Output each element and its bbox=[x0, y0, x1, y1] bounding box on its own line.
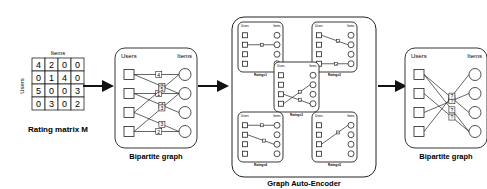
item-node bbox=[348, 132, 354, 138]
item-node bbox=[348, 42, 354, 48]
items-label: Items bbox=[177, 53, 192, 59]
user-node bbox=[124, 108, 134, 118]
user-node bbox=[243, 151, 248, 156]
matrix-caption: Rating matrix M bbox=[28, 125, 88, 134]
user-node bbox=[243, 52, 248, 57]
subgraph-caption: Rating=5 bbox=[328, 163, 341, 167]
user-node bbox=[243, 61, 248, 66]
user-node bbox=[317, 132, 322, 137]
items-label: Items bbox=[467, 53, 482, 59]
users-label: Users bbox=[411, 53, 427, 59]
matrix-cell-value: 0 bbox=[62, 60, 67, 70]
user-node bbox=[243, 132, 248, 137]
subgraph-caption: Rating=1 bbox=[254, 73, 267, 77]
user-node bbox=[243, 42, 248, 47]
items-label: Items bbox=[347, 114, 355, 118]
matrix-cell-value: 0 bbox=[62, 99, 67, 109]
item-node bbox=[348, 122, 354, 128]
users-label: Users bbox=[315, 24, 323, 28]
users-label: Users bbox=[277, 64, 285, 68]
matrix-cell-value: 0 bbox=[49, 86, 54, 96]
subgraph-caption: Rating=3 bbox=[290, 113, 303, 117]
item-node bbox=[179, 107, 191, 119]
edge-rating-value: 3 bbox=[161, 105, 164, 111]
item-node bbox=[348, 151, 354, 157]
subgraph-caption: Rating=4 bbox=[254, 163, 267, 167]
user-node bbox=[279, 92, 284, 97]
users-label: Users bbox=[241, 114, 249, 118]
gae-subgraph-rating-4: UsersItems44Rating=4 bbox=[238, 112, 283, 167]
item-node bbox=[469, 69, 481, 81]
edge-rating-value: ? bbox=[451, 107, 454, 113]
edge-rating-value: ? bbox=[451, 93, 454, 99]
rating-matrix: Items Users 4200014050030302 Rating matr… bbox=[19, 50, 88, 134]
edge-rating-value: ? bbox=[451, 114, 454, 120]
item-node bbox=[274, 42, 280, 48]
edge-rating-value: 5 bbox=[161, 86, 164, 92]
users-label: Users bbox=[315, 114, 323, 118]
matrix-cell-value: 4 bbox=[62, 73, 67, 83]
gae-subgraph-rating-5: UsersItems5Rating=5 bbox=[312, 112, 357, 167]
user-node bbox=[317, 33, 322, 38]
user-node bbox=[243, 123, 248, 128]
matrix-cell-value: 0 bbox=[75, 73, 80, 83]
item-node bbox=[469, 88, 481, 100]
item-node bbox=[274, 32, 280, 38]
gc-mc-pipeline-diagram: Items Users 4200014050030302 Rating matr… bbox=[0, 0, 487, 189]
user-node bbox=[124, 70, 134, 80]
matrix-cell-value: 3 bbox=[75, 86, 80, 96]
item-node bbox=[274, 132, 280, 138]
edge-rating-value: 2 bbox=[157, 129, 160, 135]
item-node bbox=[179, 126, 191, 138]
user-node bbox=[243, 33, 248, 38]
user-node bbox=[317, 151, 322, 156]
user-node bbox=[279, 73, 284, 78]
input-graph-caption: Bipartite graph bbox=[129, 152, 183, 161]
users-label: Users bbox=[241, 24, 249, 28]
items-label: Items bbox=[273, 114, 281, 118]
user-node bbox=[414, 70, 424, 80]
item-node bbox=[274, 141, 280, 147]
user-node bbox=[414, 127, 424, 137]
items-label: Items bbox=[309, 64, 317, 68]
matrix-cell-value: 1 bbox=[49, 73, 54, 83]
matrix-col-label: Items bbox=[51, 50, 66, 56]
item-node bbox=[310, 101, 316, 107]
user-node bbox=[317, 142, 322, 147]
gae-caption: Graph Auto-Encoder bbox=[267, 179, 341, 188]
matrix-cell-value: 3 bbox=[49, 99, 54, 109]
item-node bbox=[348, 51, 354, 57]
item-node bbox=[469, 107, 481, 119]
item-node bbox=[348, 61, 354, 67]
matrix-cell-value: 0 bbox=[75, 60, 80, 70]
output-graph-caption: Bipartite graph bbox=[419, 152, 473, 161]
item-node bbox=[348, 32, 354, 38]
item-node bbox=[310, 91, 316, 97]
item-node bbox=[310, 82, 316, 88]
edge-rating-value: 4 bbox=[157, 72, 160, 78]
item-node bbox=[179, 69, 191, 81]
user-node bbox=[124, 89, 134, 99]
matrix-cell-value: 0 bbox=[36, 73, 41, 83]
matrix-cell-value: 5 bbox=[36, 86, 41, 96]
item-node bbox=[310, 72, 316, 78]
input-bipartite-graph: UsersItems42145332 bbox=[115, 48, 197, 148]
users-label: Users bbox=[121, 53, 137, 59]
matrix-row-label: Users bbox=[19, 78, 25, 94]
matrix-cell-value: 2 bbox=[75, 99, 80, 109]
item-node bbox=[469, 126, 481, 138]
user-node bbox=[317, 123, 322, 128]
matrix-cell-value: 4 bbox=[36, 60, 41, 70]
user-node bbox=[279, 101, 284, 106]
user-node bbox=[243, 142, 248, 147]
item-node bbox=[274, 151, 280, 157]
user-node bbox=[414, 89, 424, 99]
items-label: Items bbox=[347, 24, 355, 28]
output-bipartite-graph: UsersItems????? bbox=[405, 48, 487, 148]
item-node bbox=[274, 51, 280, 57]
matrix-cell-value: 2 bbox=[49, 60, 54, 70]
item-node bbox=[179, 88, 191, 100]
item-node bbox=[348, 141, 354, 147]
user-node bbox=[414, 108, 424, 118]
items-label: Items bbox=[273, 24, 281, 28]
